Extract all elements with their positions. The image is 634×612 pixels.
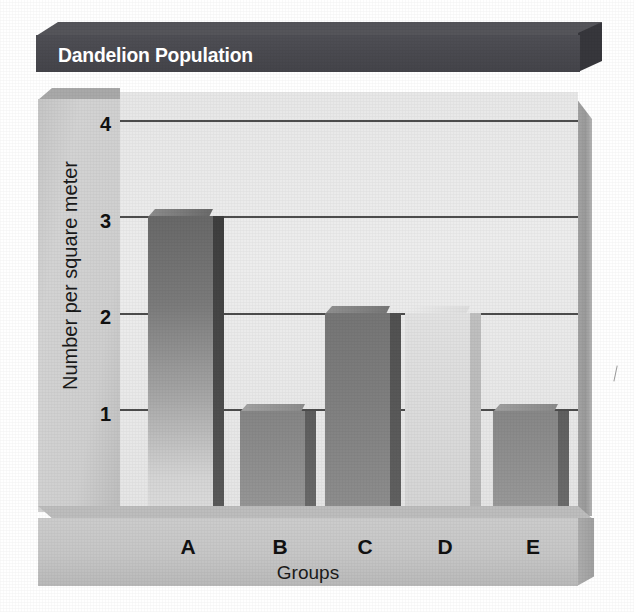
- y-tick-label-4: 4: [83, 114, 111, 134]
- bar-b-front-face: [240, 411, 305, 512]
- x-axis-base-right-face: [577, 518, 594, 586]
- bar-group-b: [240, 411, 305, 512]
- bar-group-d: [405, 313, 470, 512]
- chart-title: Dandelion Population: [58, 42, 536, 68]
- bar-group-e: [493, 411, 558, 512]
- bar-a-side-face: [213, 216, 224, 512]
- y-tick-label-1: 1: [83, 404, 111, 424]
- bar-d-front-face: [405, 313, 470, 512]
- x-tick-label-c: C: [345, 536, 385, 557]
- bar-c-side-face: [390, 313, 401, 512]
- bar-b-side-face: [305, 411, 316, 512]
- stray-pencil-mark: [613, 366, 622, 383]
- gridline-4: [120, 120, 578, 122]
- chart-title-banner: Dandelion Population: [36, 22, 602, 72]
- x-tick-label-a: A: [168, 536, 208, 557]
- bar-e-side-face: [558, 411, 569, 512]
- y-tick-label-3: 3: [83, 211, 111, 231]
- x-axis-title: Groups: [38, 562, 578, 584]
- bar-c-front-face: [325, 313, 390, 512]
- x-tick-label-d: D: [425, 536, 465, 557]
- y-tick-label-2: 2: [83, 307, 111, 327]
- y-axis-panel: Number per square meter 4 3 2 1: [38, 88, 120, 512]
- plot-area-right-shadow: [576, 98, 592, 516]
- plot-area: [120, 92, 578, 512]
- bar-d-side-face: [470, 313, 481, 512]
- bar-group-a: [148, 216, 213, 512]
- bar-group-c: [325, 313, 390, 512]
- y-axis-title: Number per square meter: [59, 86, 82, 466]
- x-tick-label-e: E: [513, 536, 553, 557]
- bar-e-front-face: [493, 411, 558, 512]
- x-tick-label-b: B: [260, 536, 300, 557]
- bar-a-front-face: [148, 216, 213, 512]
- dandelion-population-bar-chart: Dandelion Population Number per square m…: [0, 0, 634, 612]
- x-axis-base-slab: A B C D E Groups: [38, 506, 594, 586]
- title-banner-top-bevel: [36, 22, 602, 36]
